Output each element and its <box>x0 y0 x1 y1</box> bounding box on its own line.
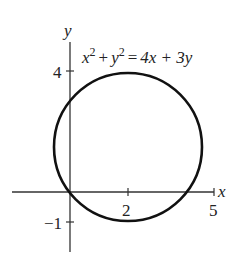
y-tick-label-4: 4 <box>53 63 62 82</box>
x-tick-label-5: 5 <box>209 201 218 220</box>
x-axis-label: x <box>217 182 226 201</box>
circle-curve <box>54 73 202 221</box>
equation-annotation: x2+y2=4x + 3y <box>81 45 193 67</box>
circle-plot: y x 2 5 4 −1 x2+y2=4x + 3y <box>0 0 241 264</box>
x-tick-label-2: 2 <box>122 201 131 220</box>
y-axis-label: y <box>62 21 72 40</box>
y-tick-label-neg1: −1 <box>44 214 62 233</box>
